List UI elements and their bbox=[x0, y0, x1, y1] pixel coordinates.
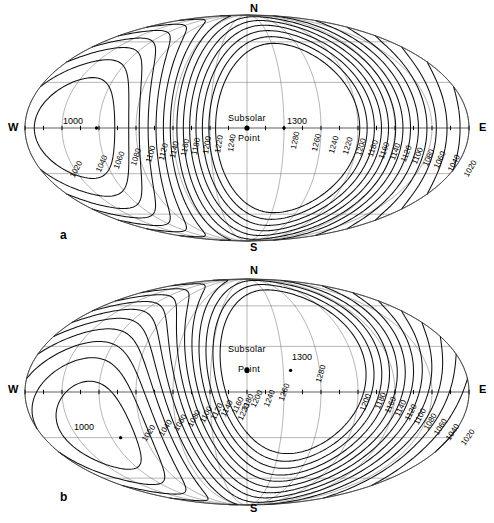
panel-b-subsolar-line2: Point bbox=[238, 364, 260, 374]
minimum-marker bbox=[95, 126, 98, 129]
panel-b-min-label: 1000 bbox=[74, 422, 94, 432]
panel-b-label-south: S bbox=[250, 502, 258, 514]
panel-a-label-north: N bbox=[250, 2, 258, 14]
panel-a-max-label: 1300 bbox=[287, 116, 307, 126]
panel-a: W E N S Subsolar Point 1300 1000 a bbox=[0, 0, 494, 262]
panel-a-subsolar-line1: Subsolar bbox=[228, 113, 266, 123]
panel-a-subsolar-line2: Point bbox=[238, 133, 260, 143]
panel-a-caption: a bbox=[60, 228, 67, 242]
panel-b-caption: b bbox=[60, 490, 67, 504]
panel-b-subsolar-line1: Subsolar bbox=[228, 344, 266, 354]
maximum-marker bbox=[282, 126, 285, 129]
subsolar-point-marker bbox=[244, 125, 249, 130]
panel-a-map bbox=[0, 0, 494, 262]
panel-a-label-south: S bbox=[250, 241, 258, 253]
panel-b-label-west: W bbox=[8, 383, 19, 395]
panel-b-label-east: E bbox=[479, 383, 487, 395]
panel-a-min-label: 1000 bbox=[63, 116, 83, 126]
panel-b-max-label: 1300 bbox=[292, 352, 312, 362]
panel-a-label-west: W bbox=[8, 121, 19, 133]
maximum-marker bbox=[289, 369, 292, 372]
figure-root: W E N S Subsolar Point 1300 1000 a W E N… bbox=[0, 0, 494, 523]
minimum-marker bbox=[119, 436, 122, 439]
panel-a-label-east: E bbox=[479, 121, 487, 133]
panel-b-label-north: N bbox=[250, 264, 258, 276]
